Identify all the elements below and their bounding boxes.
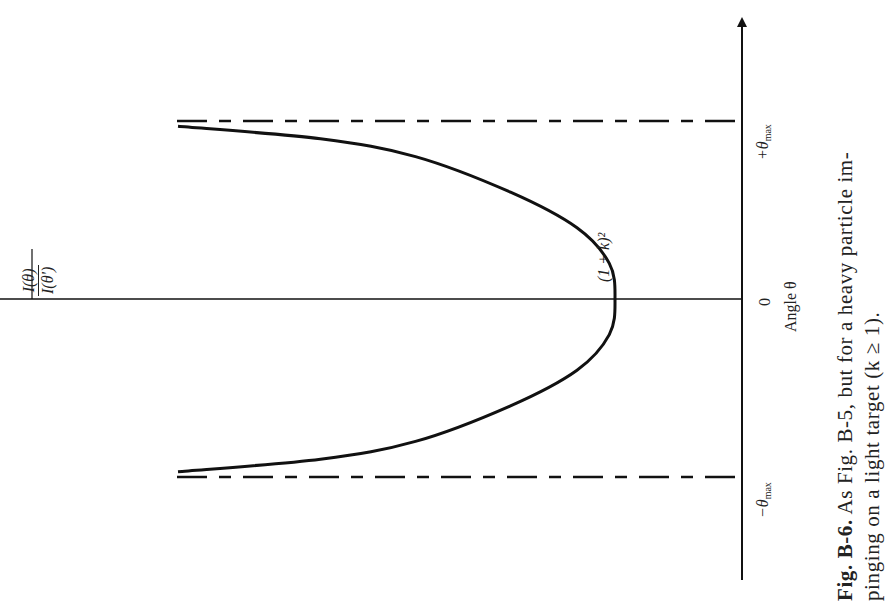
figure-caption-text: As Fig. B-5, but for a heavy particle im… — [833, 152, 857, 515]
x-tick-zero: 0 — [756, 298, 774, 306]
x-tick-label: −θ — [754, 499, 771, 518]
x-tick-minus-theta-max: −θmax — [754, 482, 773, 518]
y-axis-label: I(θ) I(θ') — [20, 265, 57, 296]
y-axis-label-numerator: I(θ) — [20, 265, 39, 296]
x-tick-plus-theta-max: +θmax — [754, 124, 773, 160]
y-axis-label-denominator: I(θ') — [39, 265, 57, 296]
x-axis-label: Angle θ — [782, 281, 800, 332]
figure-caption-line-2: pinging on a light target (k ≥ 1). — [860, 312, 885, 601]
x-tick-subscript: max — [762, 124, 773, 141]
figure-caption-line-1: Fig. B-6. As Fig. B-5, but for a heavy p… — [833, 152, 858, 601]
x-tick-subscript: max — [762, 482, 773, 499]
minimum-annotation: (1 + k)² — [595, 233, 613, 282]
figure-caption-label: Fig. B-6. — [833, 519, 857, 601]
x-tick-label: +θ — [754, 141, 771, 160]
